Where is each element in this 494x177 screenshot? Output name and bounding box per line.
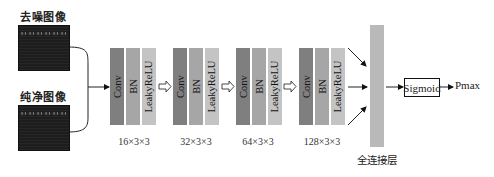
output-label: Pmax: [455, 79, 480, 91]
merge-bracket: [68, 47, 88, 132]
clean-image-label: 纯净图像: [17, 88, 69, 104]
block-2-dims: 32×3×3: [166, 136, 226, 147]
denoised-image-thumbnail: [18, 25, 70, 71]
block-4-dims: 128×3×3: [292, 136, 352, 147]
leakyrelu-layer-4: LeakyReLU: [331, 48, 345, 125]
denoised-image-label: 去噪图像: [17, 8, 69, 24]
block-3-dims: 64×3×3: [228, 136, 288, 147]
conv-layer-1: Conv: [110, 48, 124, 125]
bn-layer-1: BN: [126, 48, 140, 125]
sigmoid-box: Sigmoid: [404, 78, 440, 97]
fully-connected-layer: [370, 25, 384, 147]
fc-arrow-top: [348, 48, 366, 66]
leakyrelu-layer-3: LeakyReLU: [268, 48, 282, 125]
bn-layer-3: BN: [252, 48, 266, 125]
clean-image-thumbnail: [18, 105, 70, 151]
fully-connected-label: 全连接层: [352, 152, 402, 167]
conv-layer-2: Conv: [173, 48, 187, 125]
conv-layer-4: Conv: [299, 48, 313, 125]
sigmoid-label: Sigmoid: [403, 82, 440, 94]
bn-layer-2: BN: [189, 48, 203, 125]
leakyrelu-layer-1: LeakyReLU: [142, 48, 156, 125]
block-1-dims: 16×3×3: [104, 136, 164, 147]
bn-layer-4: BN: [315, 48, 329, 125]
conv-layer-3: Conv: [236, 48, 250, 125]
fc-arrow-bottom: [348, 107, 366, 125]
leakyrelu-layer-2: LeakyReLU: [205, 48, 219, 125]
